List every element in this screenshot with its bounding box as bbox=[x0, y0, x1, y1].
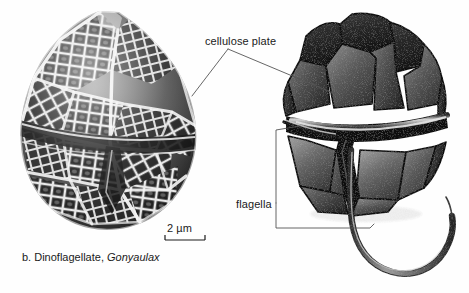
label-flagella: flagella bbox=[236, 198, 272, 210]
caption-genus: Gonyaulax bbox=[107, 251, 160, 263]
label-cellulose-plate: cellulose plate bbox=[205, 35, 276, 47]
leader-cellulose-plate-to-sem bbox=[192, 49, 228, 96]
figure-dinoflagellate-gonyaulax: cellulose plate flagella 2 µm b. Dinofla… bbox=[0, 0, 469, 293]
scale-bar bbox=[165, 235, 205, 240]
caption-prefix: b. Dinoflagellate, bbox=[22, 251, 104, 263]
cingulum-groove bbox=[286, 112, 448, 142]
figure-caption: b. Dinoflagellate, Gonyaulax bbox=[22, 251, 160, 263]
sem-micrograph bbox=[10, 0, 210, 240]
gonyaulax-drawing bbox=[284, 13, 453, 273]
scale-bar-label: 2 µm bbox=[167, 222, 192, 234]
